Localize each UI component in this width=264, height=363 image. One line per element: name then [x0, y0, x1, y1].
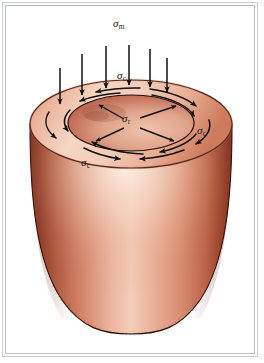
rim-inner-ellipse-bore: [68, 95, 194, 151]
label-sigma-c-bottom-sub: c: [87, 161, 90, 170]
figure-container: σm σc σc σc σr: [0, 0, 264, 363]
bore-mottle-2: [85, 111, 109, 121]
label-sigma-c-right-sub: c: [203, 129, 206, 138]
label-sigma-c-right-text: σ: [197, 124, 202, 136]
label-sigma-c-bottom-text: σ: [81, 156, 86, 168]
label-sigma-r-sub: r: [128, 117, 131, 126]
label-sigma-c-bottom: σc: [81, 157, 90, 168]
vessel-diagram-svg: [0, 0, 264, 363]
label-sigma-c-top-sub: c: [123, 74, 126, 83]
label-sigma-c-right: σc: [197, 125, 206, 136]
label-sigma-m-text: σ: [113, 17, 118, 29]
label-sigma-m-sub: m: [119, 22, 125, 31]
label-sigma-c-top: σc: [117, 70, 126, 81]
label-sigma-r-text: σ: [122, 112, 127, 124]
label-sigma-m: σm: [113, 18, 124, 29]
label-sigma-r-center: σr: [122, 113, 130, 124]
label-sigma-c-top-text: σ: [117, 69, 122, 81]
